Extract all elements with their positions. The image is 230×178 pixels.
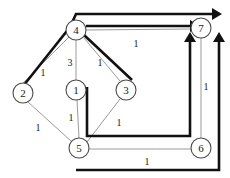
- arrowhead-bottom-to-7: [213, 32, 225, 42]
- edge-weight-5-3: 1: [117, 117, 122, 128]
- edge-weight-1-5: 1: [69, 112, 74, 123]
- node-7-label: 7: [198, 22, 204, 34]
- graph-diagram: 1 3 1 1 1 1 1 1 1 1 2 3 4 5: [0, 0, 230, 178]
- arrowhead-outer-to-7: [212, 8, 222, 20]
- edge-weight-4-7: 1: [134, 38, 139, 49]
- node-6[interactable]: 6: [191, 138, 211, 158]
- edge-1-5: [77, 100, 79, 138]
- edges-layer: [23, 29, 201, 149]
- edge-weight-4-3: 1: [98, 57, 103, 68]
- edge-weight-5-6: 1: [145, 156, 150, 167]
- node-2[interactable]: 2: [13, 83, 33, 103]
- edge-2-5: [28, 102, 71, 141]
- node-3[interactable]: 3: [116, 80, 136, 100]
- edge-weight-4-1: 3: [68, 57, 73, 68]
- node-7[interactable]: 7: [191, 18, 211, 38]
- edge-weights-layer: 1 3 1 1 1 1 1 1 1: [36, 38, 209, 167]
- edge-weight-2-5: 1: [36, 122, 41, 133]
- edge-weight-6-7: 1: [204, 81, 209, 92]
- node-6-label: 6: [198, 142, 204, 154]
- node-5[interactable]: 5: [69, 138, 89, 158]
- node-5-label: 5: [76, 142, 82, 154]
- edge-weight-2-4: 1: [41, 67, 46, 78]
- node-1[interactable]: 1: [66, 80, 86, 100]
- node-3-label: 3: [123, 84, 129, 96]
- node-1-label: 1: [73, 84, 79, 96]
- node-2-label: 2: [20, 87, 26, 99]
- edge-4-7: [86, 29, 191, 30]
- highlight-path-4-to-3: [84, 35, 132, 80]
- node-4[interactable]: 4: [66, 20, 86, 40]
- node-4-label: 4: [73, 24, 79, 36]
